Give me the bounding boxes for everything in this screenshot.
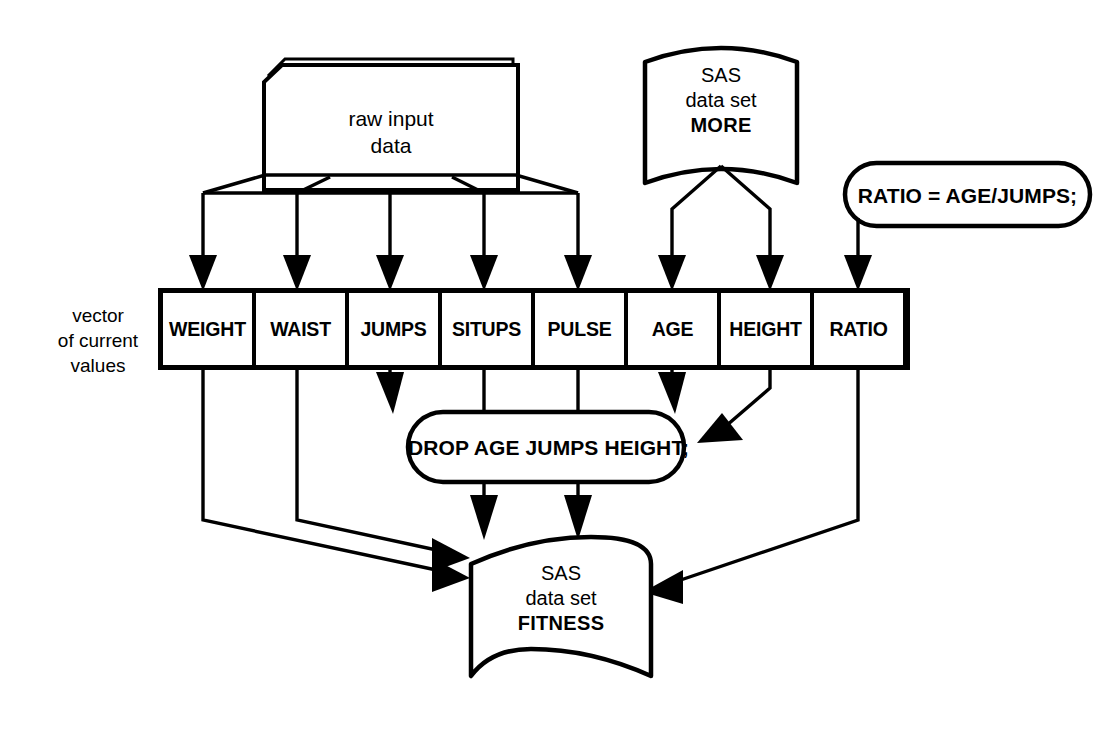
raw-input-fanout-connectors [189, 175, 592, 291]
sas-data-set-more-label: SAS data set MORE [645, 63, 797, 138]
vector-cell-age[interactable]: AGE [626, 318, 719, 341]
drop-statement-label: DROP AGE JUMPS HEIGHT; [408, 436, 684, 461]
ratio-to-vector-connector [844, 218, 872, 291]
ratio-statement-label: RATIO = AGE/JUMPS; [845, 184, 1090, 209]
fitness-line1: SAS [541, 562, 581, 584]
fitness-line3: FITNESS [518, 612, 605, 634]
vector-cell-height[interactable]: HEIGHT [719, 318, 812, 341]
more-line3: MORE [690, 114, 751, 136]
jumps-to-drop-connector [376, 369, 404, 414]
vector-cell-ratio[interactable]: RATIO [812, 318, 905, 341]
more-line1: SAS [701, 64, 741, 86]
fitness-line2: data set [525, 587, 596, 609]
vector-caption: vector of current values [38, 303, 158, 378]
more-line2: data set [685, 89, 756, 111]
diagram-canvas: raw input data SAS data set MORE RATIO =… [0, 0, 1109, 731]
drop-to-fitness-connectors [470, 482, 592, 540]
vector-caption-line1: vector [72, 305, 124, 326]
more-fanout-connectors [658, 166, 784, 291]
vector-cell-situps[interactable]: SITUPS [440, 318, 533, 341]
vector-caption-line3: values [71, 355, 126, 376]
raw-input-line1: raw input [348, 107, 433, 130]
raw-input-data-label: raw input data [264, 105, 518, 160]
vector-caption-line2: of current [58, 330, 138, 351]
raw-input-line2: data [371, 134, 412, 157]
vector-cell-pulse[interactable]: PULSE [533, 318, 626, 341]
vector-cell-waist[interactable]: WAIST [254, 318, 347, 341]
age-to-drop-connector [658, 369, 686, 414]
vector-cell-jumps[interactable]: JUMPS [347, 318, 440, 341]
vector-cell-weight[interactable]: WEIGHT [161, 318, 254, 341]
height-to-drop-connector [697, 369, 770, 443]
sas-data-set-fitness-label: SAS data set FITNESS [471, 561, 651, 636]
